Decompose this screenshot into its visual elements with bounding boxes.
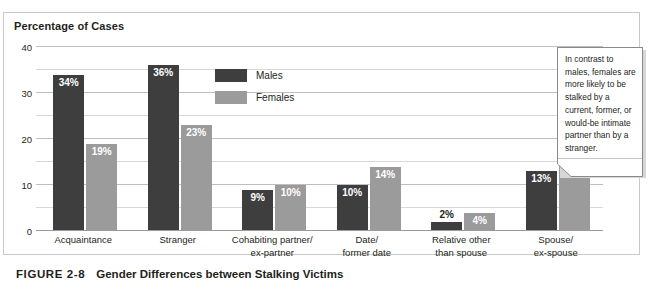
bar-females[interactable]: 14% (370, 167, 401, 231)
x-axis-category-label: Cohabiting partner/ex-partner (225, 234, 320, 259)
category-label-line: ex-partner (225, 247, 320, 260)
bar-males[interactable]: 34% (53, 75, 84, 231)
bar-value-label: 13% (526, 173, 557, 185)
y-axis-ticks: 010203040 (6, 47, 32, 231)
legend-swatch-females-icon (215, 91, 247, 104)
y-axis-tick-label: 0 (6, 226, 32, 237)
x-axis-category-label: Spouse/ex-spouse (509, 234, 604, 259)
bar-value-label: 9% (242, 192, 273, 204)
category-label-line: Stranger (131, 234, 226, 247)
x-axis-line (36, 230, 603, 231)
x-axis-category-label: Relative otherthan spouse (414, 234, 509, 259)
category-label-line: Date/ (320, 234, 415, 247)
bar-males[interactable]: 36% (148, 65, 179, 231)
figure-caption-text: Gender Differences between Stalking Vict… (96, 268, 343, 280)
figure-caption: FIGURE 2-8Gender Differences between Sta… (16, 268, 343, 280)
bar-group: 2%4% (431, 47, 495, 231)
bar-value-label: 23% (181, 127, 212, 139)
x-axis-category-label: Acquaintance (36, 234, 131, 247)
x-axis-category-label: Stranger (131, 234, 226, 247)
legend-label-males: Males (256, 70, 283, 81)
category-label-line: Cohabiting partner/ (225, 234, 320, 247)
legend: Males Females (215, 66, 325, 110)
y-axis-tick-label: 10 (6, 180, 32, 191)
category-label-line: Relative other (414, 234, 509, 247)
legend-item-females: Females (215, 88, 325, 107)
callout-box: In contrast to males, females are more l… (557, 47, 643, 159)
chart-title: Percentage of Cases (14, 20, 124, 32)
category-label-line: former date (320, 247, 415, 260)
legend-item-males: Males (215, 66, 325, 85)
bar-value-label: 4% (464, 215, 495, 227)
y-axis-tick-label: 20 (6, 134, 32, 145)
bar-males[interactable]: 10% (337, 185, 368, 231)
bar-value-label: 19% (86, 146, 117, 158)
x-axis-category-label: Date/former date (320, 234, 415, 259)
y-axis-tick-label: 40 (6, 42, 32, 53)
callout-fold-corner-icon (557, 158, 643, 177)
bar-females[interactable]: 10% (275, 185, 306, 231)
legend-label-females: Females (256, 92, 294, 103)
bar-females[interactable]: 19% (86, 144, 117, 231)
bar-females[interactable]: 4% (464, 213, 495, 231)
bar-value-label: 2% (431, 209, 462, 221)
bar-males[interactable]: 9% (242, 190, 273, 231)
bar-value-label: 36% (148, 67, 179, 79)
bar-value-label: 10% (337, 187, 368, 199)
category-label-line: Acquaintance (36, 234, 131, 247)
bar-females[interactable]: 23% (181, 125, 212, 231)
bar-group: 34%19% (53, 47, 117, 231)
bar-value-label: 14% (370, 169, 401, 181)
legend-swatch-males-icon (215, 69, 247, 82)
category-label-line: than spouse (414, 247, 509, 260)
bar-group: 10%14% (337, 47, 401, 231)
bar-group: 36%23% (148, 47, 212, 231)
category-label-line: ex-spouse (509, 247, 604, 260)
y-axis-tick-label: 30 (6, 88, 32, 99)
figure-number: FIGURE 2-8 (16, 268, 85, 280)
category-label-line: Spouse/ (509, 234, 604, 247)
bar-males[interactable]: 13% (526, 171, 557, 231)
bar-value-label: 34% (53, 77, 84, 89)
caption-rule (3, 262, 640, 263)
callout-text: In contrast to males, females are more l… (558, 48, 642, 155)
bar-value-label: 10% (275, 187, 306, 199)
figure-2-8: Percentage of Cases 010203040 34%19%36%2… (0, 0, 650, 292)
